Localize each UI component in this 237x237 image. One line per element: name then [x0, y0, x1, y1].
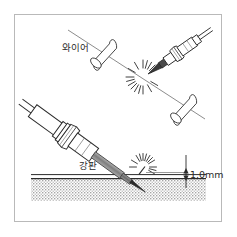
label-wire: 와이어	[62, 42, 89, 53]
label-gap-dimension: 1.0mm	[190, 169, 224, 180]
label-steel-plate: 강판	[79, 160, 97, 171]
steel-plate-body	[31, 179, 206, 201]
welding-diagram-svg: 와이어	[0, 0, 237, 237]
figure-root: 와이어	[0, 0, 237, 237]
